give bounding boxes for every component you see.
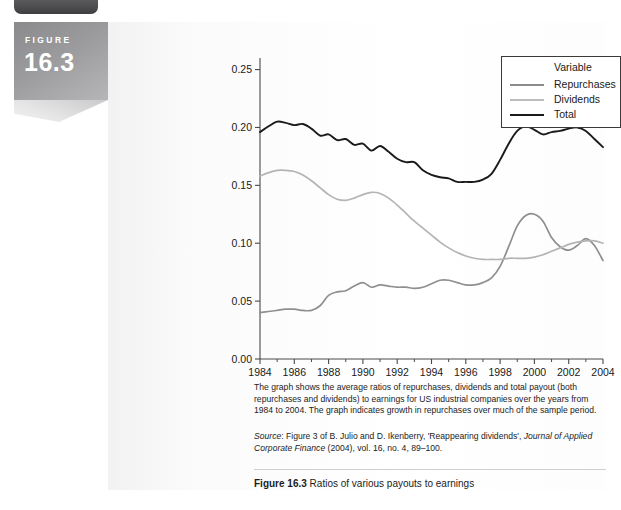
svg-text:1994: 1994	[420, 366, 444, 378]
svg-text:0.10: 0.10	[232, 237, 253, 249]
svg-text:2004: 2004	[591, 366, 615, 378]
figure-caption-title: Ratios of various payouts to earnings	[310, 478, 475, 489]
svg-text:1988: 1988	[317, 366, 341, 378]
legend-label-total: Total	[554, 108, 576, 120]
caption-divider	[254, 469, 606, 470]
figure-number-badge: FIGURE 16.3	[14, 22, 108, 100]
page-tab-decoration	[14, 0, 98, 14]
legend-title: Variable	[554, 61, 592, 73]
svg-text:1986: 1986	[283, 366, 307, 378]
figure-source: Source: Figure 3 of B. Julio and D. Iken…	[254, 431, 606, 454]
series-line-total	[260, 122, 603, 183]
svg-text:1984: 1984	[248, 366, 272, 378]
legend-swatch-total	[510, 114, 544, 116]
figure-badge-label: FIGURE	[25, 35, 72, 45]
figure-caption: Figure 16.3 Ratios of various payouts to…	[254, 478, 606, 489]
legend-swatch-repurchases	[510, 84, 544, 86]
svg-text:0.15: 0.15	[232, 179, 253, 191]
svg-text:1998: 1998	[488, 366, 512, 378]
svg-text:1996: 1996	[454, 366, 478, 378]
figure-badge-number: 16.3	[24, 48, 75, 77]
source-text: : Figure 3 of B. Julio and D. Ikenberry,…	[281, 431, 523, 441]
svg-text:0.00: 0.00	[232, 353, 253, 365]
series-line-dividends	[260, 170, 603, 259]
source-label: Source	[254, 431, 281, 441]
chart-legend: Variable Repurchases Dividends Total	[501, 56, 621, 128]
figure-description: The graph shows the average ratios of re…	[254, 382, 606, 417]
svg-text:1992: 1992	[386, 366, 410, 378]
legend-swatch-dividends	[510, 99, 544, 101]
svg-text:0.20: 0.20	[232, 121, 253, 133]
source-tail: (2004), vol. 16, no. 4, 89–100.	[325, 443, 442, 453]
chart-area: 0.000.050.100.150.200.251984198619881990…	[220, 48, 620, 378]
svg-text:2002: 2002	[557, 366, 581, 378]
svg-text:2000: 2000	[523, 366, 547, 378]
legend-label-dividends: Dividends	[554, 93, 600, 105]
figure-panel: 0.000.050.100.150.200.251984198619881990…	[108, 22, 604, 490]
series-line-repurchases	[260, 214, 603, 313]
svg-text:0.25: 0.25	[232, 63, 253, 75]
svg-text:0.05: 0.05	[232, 295, 253, 307]
legend-label-repurchases: Repurchases	[554, 78, 616, 90]
svg-text:1990: 1990	[351, 366, 375, 378]
figure-caption-label: Figure 16.3	[254, 478, 307, 489]
